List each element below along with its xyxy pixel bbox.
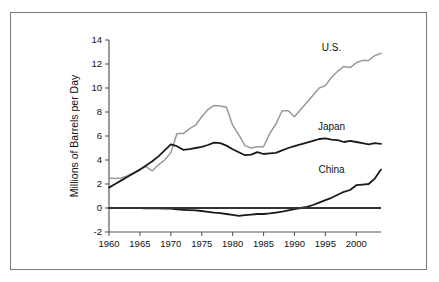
data-series-layer — [109, 53, 381, 216]
series-annotations: U.S.JapanChina — [318, 42, 345, 175]
oil-consumption-line-chart: Millions of Barrels per Day -20246810121… — [0, 0, 439, 282]
x-tick-label: 1965 — [129, 238, 150, 249]
y-tick-label: 0 — [97, 202, 102, 213]
series-line-us — [109, 53, 381, 178]
y-tick-label: 12 — [91, 58, 102, 69]
y-tick-label: -2 — [94, 226, 102, 237]
x-tick-label: 1990 — [284, 238, 305, 249]
y-tick-label: 8 — [97, 106, 102, 117]
series-label-china: China — [318, 164, 345, 175]
x-tick-label: 1970 — [160, 238, 181, 249]
y-axis-ticks: -202468101214 — [91, 34, 109, 237]
y-tick-label: 6 — [97, 130, 102, 141]
chart-container: Millions of Barrels per Day -20246810121… — [0, 0, 439, 282]
y-tick-label: 2 — [97, 178, 102, 189]
y-tick-label: 4 — [97, 154, 102, 165]
x-tick-label: 2000 — [346, 238, 367, 249]
y-axis-title: Millions of Barrels per Day — [68, 74, 80, 197]
x-tick-label: 1980 — [222, 238, 243, 249]
x-tick-label: 1985 — [253, 238, 274, 249]
series-label-japan: Japan — [318, 121, 345, 132]
y-tick-label: 14 — [91, 34, 102, 45]
x-axis-ticks: 196019651970197519801985199019952000 — [98, 232, 366, 249]
x-tick-label: 1975 — [191, 238, 212, 249]
x-tick-label: 1960 — [98, 238, 119, 249]
y-axis-label: Millions of Barrels per Day — [68, 74, 80, 197]
y-tick-label: 10 — [91, 82, 102, 93]
series-label-us: U.S. — [322, 42, 341, 53]
x-tick-label: 1995 — [315, 238, 336, 249]
